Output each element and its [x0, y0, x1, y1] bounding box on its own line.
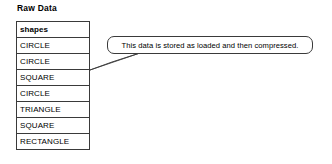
column-header-shapes: shapes — [17, 22, 90, 38]
diagram-canvas: Raw Data shapes CIRCLE CIRCLE SQUARE CIR… — [0, 0, 332, 164]
annotation-callout: This data is stored as loaded and then c… — [107, 36, 313, 54]
table-row: CIRCLE — [17, 86, 90, 102]
table-cell-shape: CIRCLE — [17, 54, 90, 70]
table-cell-shape: SQUARE — [17, 70, 90, 86]
table-row: SQUARE — [17, 118, 90, 134]
table-cell-shape: SQUARE — [17, 118, 90, 134]
table-row: TRIANGLE — [17, 102, 90, 118]
table-cell-shape: CIRCLE — [17, 38, 90, 54]
table-cell-shape: TRIANGLE — [17, 102, 90, 118]
table-body: shapes CIRCLE CIRCLE SQUARE CIRCLE TRIAN… — [17, 22, 90, 150]
annotation-callout-text: This data is stored as loaded and then c… — [108, 37, 312, 53]
table-row: CIRCLE — [17, 38, 90, 54]
raw-data-table: shapes CIRCLE CIRCLE SQUARE CIRCLE TRIAN… — [16, 21, 90, 150]
table-cell-shape: CIRCLE — [17, 86, 90, 102]
callout-pointer-shape — [90, 53, 140, 70]
table-header-row: shapes — [17, 22, 90, 38]
page-title: Raw Data — [17, 3, 57, 14]
table-row: CIRCLE — [17, 54, 90, 70]
table-row: RECTANGLE — [17, 134, 90, 150]
table-row: SQUARE — [17, 70, 90, 86]
table-cell-shape: RECTANGLE — [17, 134, 90, 150]
